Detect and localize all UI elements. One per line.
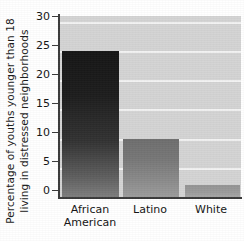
bar-chart-figure: Percentage of youths younger than 18 liv…: [0, 0, 244, 241]
y-tick-label-0: 0: [20, 185, 50, 196]
y-tick-label-30: 30: [20, 11, 50, 22]
y-tick-label-10: 10: [20, 127, 50, 138]
y-axis-line: [58, 14, 60, 199]
bar-white: [185, 185, 240, 197]
x-tick-label-latino-line-1: Latino: [120, 203, 180, 216]
x-tick-label-latino: Latino: [120, 203, 180, 216]
x-tick-label-white: White: [182, 203, 240, 216]
x-axis-line: [58, 197, 242, 199]
y-tick-label-20: 20: [20, 69, 50, 80]
plot-area: [60, 16, 241, 197]
y-tick-label-15: 15: [20, 98, 50, 109]
x-tick-label-african-american-line-1: African: [57, 203, 123, 216]
x-tick-label-white-line-1: White: [182, 203, 240, 216]
y-axis-title-line-1: Percentage of youths younger than 18: [4, 18, 18, 224]
y-axis-title: Percentage of youths younger than 18 liv…: [0, 0, 34, 241]
bar-latino: [123, 139, 179, 197]
y-tick-label-5: 5: [20, 156, 50, 167]
x-tick-label-african-american-line-2: American: [57, 216, 123, 229]
x-tick-label-african-american: African American: [57, 203, 123, 229]
y-tick-label-25: 25: [20, 40, 50, 51]
bar-african-american: [62, 51, 119, 197]
gridline-30: [60, 22, 241, 24]
